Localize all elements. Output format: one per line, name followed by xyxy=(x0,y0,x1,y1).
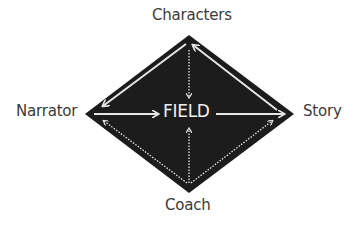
field-diagram: Characters Narrator Story Coach FIELD xyxy=(0,0,356,225)
node-coach: Coach xyxy=(165,198,211,213)
center-field-label: FIELD xyxy=(163,103,210,120)
node-narrator: Narrator xyxy=(16,104,77,119)
node-characters: Characters xyxy=(152,8,232,23)
node-story: Story xyxy=(303,104,342,119)
